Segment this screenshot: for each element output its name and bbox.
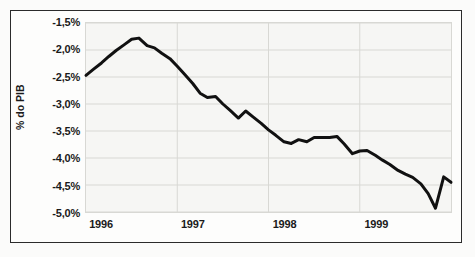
y-axis-tick-label: -4,5% (52, 180, 80, 192)
y-axis-tick-label: -3,0% (52, 98, 80, 110)
y-axis-tick-labels: -1,5%-2,0%-2,5%-3,0%-3,5%-4,0%-4,5%-5,0% (0, 0, 80, 257)
y-axis-tick-label: -2,5% (52, 71, 80, 83)
x-axis-tick-label: 1996 (89, 218, 113, 230)
plot-area (85, 22, 452, 213)
y-axis-tick-label: -5,0% (52, 207, 80, 219)
y-axis-tick-label: -4,0% (52, 152, 80, 164)
x-axis-tick-label: 1998 (273, 218, 297, 230)
series-line-percent-do-pib (86, 23, 451, 212)
x-axis-tick-label: 1997 (181, 218, 205, 230)
data-line (86, 38, 451, 208)
y-axis-tick-label: -1,5% (52, 16, 80, 28)
y-axis-tick-label: -2,0% (52, 43, 80, 55)
chart-figure: % do PIB -1,5%-2,0%-2,5%-3,0%-3,5%-4,0%-… (0, 0, 475, 257)
x-axis-tick-label: 1999 (364, 218, 388, 230)
y-axis-tick-label: -3,5% (52, 125, 80, 137)
